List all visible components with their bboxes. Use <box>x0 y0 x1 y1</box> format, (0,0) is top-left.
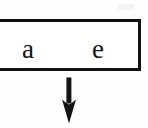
down-arrow <box>53 77 85 125</box>
boxed-cell: a e <box>0 19 141 71</box>
scan-artifact-speck <box>118 4 134 10</box>
down-arrow-icon <box>53 77 85 125</box>
figure-canvas: a e <box>0 0 148 128</box>
cell-entry-left: a <box>22 36 34 63</box>
cell-entry-right: e <box>92 36 104 63</box>
scan-artifact-line <box>0 16 148 17</box>
boxed-cell-contents: a e <box>0 22 138 68</box>
